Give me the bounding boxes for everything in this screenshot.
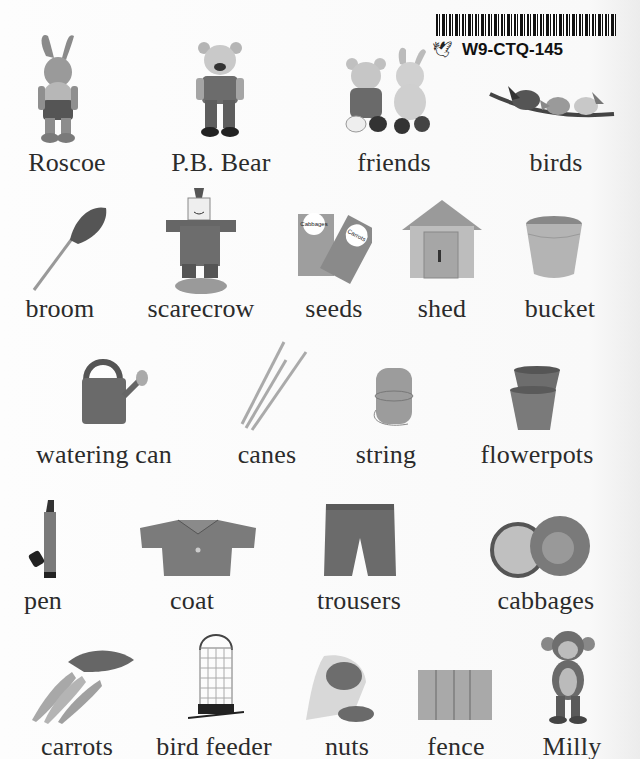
entry-label: nuts <box>325 732 369 759</box>
broom-icon <box>30 200 110 294</box>
scarecrow-icon <box>164 186 238 296</box>
entry-label: friends <box>357 148 431 178</box>
entry-label: bird feeder <box>156 732 272 759</box>
entry-label: P.B. Bear <box>171 148 270 178</box>
entry-label: shed <box>418 294 466 324</box>
string-ball-icon <box>368 366 418 432</box>
barcode-bars <box>436 14 616 36</box>
watering-can-icon <box>80 356 152 426</box>
svg-text:Cabbages: Cabbages <box>300 221 327 227</box>
entry-label: birds <box>530 148 583 178</box>
flowerpots-icon <box>508 366 566 432</box>
entry-label: broom <box>26 294 95 324</box>
bird-feeder-icon <box>188 630 244 722</box>
nuts-bag-icon <box>304 652 378 726</box>
barcode-code: W9-CTQ-145 <box>462 40 563 60</box>
pen-icon <box>26 498 66 580</box>
entry-label: trousers <box>317 586 401 616</box>
picture-dictionary-page: 🕊︎ W9-CTQ-145 Roscoe P.B. Bear <box>0 0 640 759</box>
entry-label: Roscoe <box>28 148 106 178</box>
entry-label: carrots <box>41 732 113 759</box>
entry-label: coat <box>170 586 214 616</box>
entry-label: bucket <box>525 294 596 324</box>
trousers-icon <box>322 502 398 580</box>
entry-label: fence <box>427 732 484 759</box>
coat-icon <box>138 514 258 578</box>
bear-and-rabbit-icon <box>344 44 444 136</box>
entry-label: flowerpots <box>480 440 593 470</box>
barcode-sticker: 🕊︎ W9-CTQ-145 <box>432 14 622 62</box>
birds-on-branch-icon <box>488 82 616 126</box>
entry-label: watering can <box>36 440 172 470</box>
entry-label: string <box>356 440 416 470</box>
entry-label: Milly <box>543 732 602 759</box>
rabbit-toy-icon <box>28 30 92 146</box>
seed-packets-icon: Cabbages Carrots <box>296 210 372 284</box>
entry-label: pen <box>24 586 62 616</box>
shed-icon <box>400 198 484 280</box>
bucket-icon <box>524 214 586 280</box>
entry-label: scarecrow <box>147 294 254 324</box>
teddy-bear-icon <box>190 40 252 140</box>
canes-icon <box>238 340 310 432</box>
carrots-icon <box>28 642 136 726</box>
fence-icon <box>418 668 494 720</box>
monkey-toy-icon <box>540 628 596 726</box>
cabbages-icon <box>490 514 592 578</box>
entry-label: seeds <box>305 294 362 324</box>
entry-label: cabbages <box>498 586 595 616</box>
entry-label: canes <box>238 440 297 470</box>
